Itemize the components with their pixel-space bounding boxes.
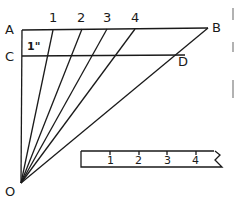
division-label-4: 4 xyxy=(131,10,139,25)
point-label-b: B xyxy=(212,20,221,35)
ruler: 1 2 3 4 xyxy=(81,151,222,167)
ruler-tick-1: 1 xyxy=(107,154,114,167)
ruler-tick-4: 4 xyxy=(192,154,199,167)
ruler-tick-3: 3 xyxy=(164,154,171,167)
division-label-3: 3 xyxy=(103,10,111,25)
point-label-c: C xyxy=(5,49,14,64)
point-label-a: A xyxy=(5,22,14,37)
division-label-1: 1 xyxy=(49,10,57,25)
segment-label-one-inch: 1" xyxy=(27,40,40,53)
line-cd xyxy=(22,55,185,56)
line-ao xyxy=(21,30,22,183)
point-label-o: O xyxy=(5,184,15,198)
ruler-tick-2: 2 xyxy=(135,154,142,167)
line-ab xyxy=(22,28,208,30)
point-label-d: D xyxy=(178,54,188,69)
division-label-2: 2 xyxy=(77,10,85,25)
construction-diagram: A B C D O 1 2 3 4 1" 1 2 3 4 xyxy=(0,0,234,198)
